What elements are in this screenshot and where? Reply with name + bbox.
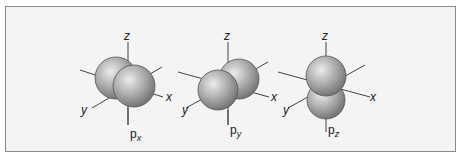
axis-y-label: y xyxy=(282,103,290,117)
px-orbital: z y x px xyxy=(80,29,173,143)
axis-z-label: z xyxy=(123,29,130,43)
axis-z-label: z xyxy=(321,29,328,43)
orbital-label-py: py xyxy=(230,123,242,139)
axis-y-label: y xyxy=(80,103,88,117)
axis-x-label: x xyxy=(165,90,173,104)
axis-y-label: y xyxy=(181,103,189,117)
orbital-label-px: px xyxy=(130,127,142,143)
axis-x-label: x xyxy=(369,90,377,104)
axis-x-label: x xyxy=(270,90,278,104)
axis-z-label: z xyxy=(223,29,230,43)
py-orbital: z y x py xyxy=(178,29,278,139)
pz-orbital: z y x pz xyxy=(278,29,377,139)
p-orbitals-diagram: z y x px z y x py z y x pz xyxy=(0,0,469,160)
orbital-label-pz: pz xyxy=(328,123,340,139)
